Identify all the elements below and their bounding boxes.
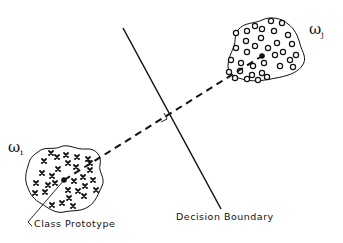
- class-j-symbol: ω: [309, 20, 321, 38]
- class-j-samples: [226, 18, 298, 82]
- diagram-canvas: [0, 0, 343, 243]
- class-i-label: ωi: [8, 138, 23, 157]
- class-j-label: ωj: [309, 20, 324, 39]
- class-i-symbol: ω: [8, 138, 20, 156]
- decision-boundary-line: [123, 28, 221, 209]
- class-j-subscript: j: [321, 30, 323, 39]
- prototype-connector-line: [64, 56, 262, 180]
- decision-boundary-label: Decision Boundary: [176, 211, 274, 222]
- class-j-prototype-point: [259, 53, 265, 59]
- class-prototype-label: Class Prototype: [34, 218, 115, 229]
- class-i-subscript: i: [20, 148, 23, 157]
- right-angle-marker: [161, 113, 167, 122]
